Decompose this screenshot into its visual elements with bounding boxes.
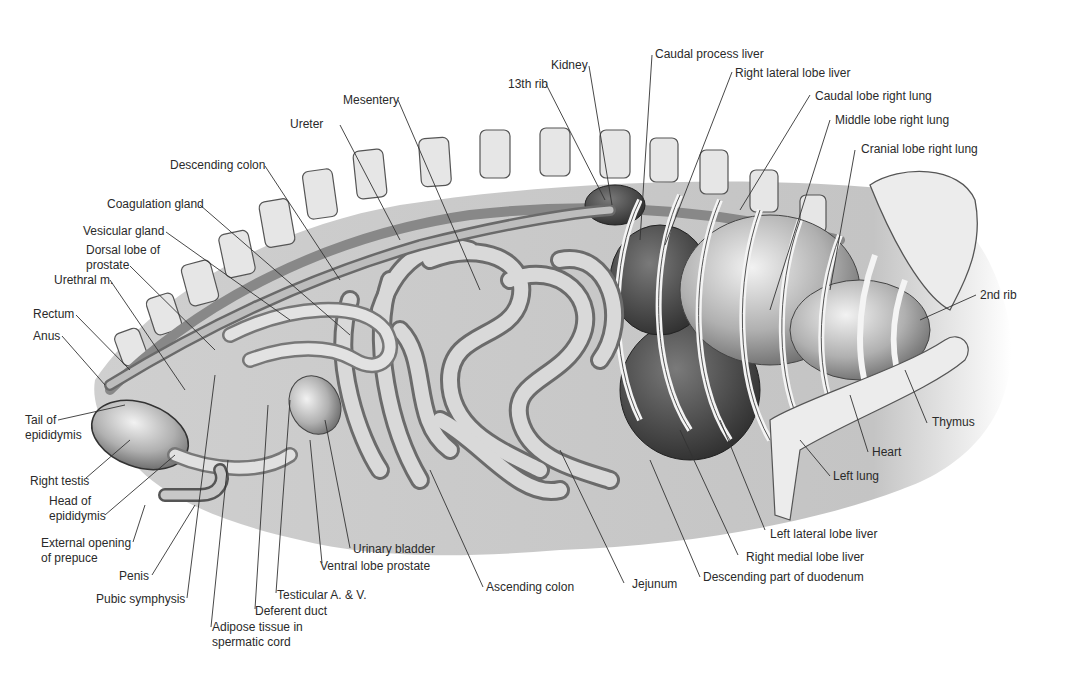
label-adipose-line1: Adipose tissue in: [212, 620, 303, 634]
label-kidney: Kidney: [551, 58, 588, 72]
label-tail-epididymis-line1: Tail of: [25, 413, 56, 427]
label-dorsal-lobe-prostate-line2: prostate: [86, 258, 129, 272]
label-right-medial-lobe-liver: Right medial lobe liver: [746, 550, 864, 564]
label-right-lateral-lobe-liver: Right lateral lobe liver: [735, 66, 850, 80]
label-coagulation-gland: Coagulation gland: [107, 197, 204, 211]
label-caudal-lobe-right-lung: Caudal lobe right lung: [815, 89, 932, 103]
label-pubic-symphysis: Pubic symphysis: [96, 592, 185, 606]
label-mesentery: Mesentery: [343, 93, 399, 107]
label-heart: Heart: [872, 445, 901, 459]
label-tail-epididymis-line2: epididymis: [25, 428, 82, 442]
label-2nd-rib: 2nd rib: [980, 288, 1017, 302]
label-testicular-av: Testicular A. & V.: [277, 588, 367, 602]
label-caudal-process-liver: Caudal process liver: [655, 47, 764, 61]
label-left-lung: Left lung: [833, 469, 879, 483]
label-descending-duodenum: Descending part of duodenum: [703, 570, 864, 584]
label-anus: Anus: [33, 329, 60, 343]
label-middle-lobe-right-lung: Middle lobe right lung: [835, 113, 949, 127]
anatomy-diagram: Kidney Caudal process liver 13th rib Rig…: [0, 0, 1079, 687]
label-external-opening-line1: External opening: [41, 536, 131, 550]
label-right-testis: Right testis: [30, 474, 89, 488]
label-adipose-line2: spermatic cord: [212, 635, 291, 649]
label-head-epididymis-line1: Head of: [49, 494, 91, 508]
label-ureter: Ureter: [290, 117, 323, 131]
label-ventral-lobe-prostate: Ventral lobe prostate: [320, 559, 430, 573]
label-head-epididymis-line2: epididymis: [49, 509, 106, 523]
label-urethral-m: Urethral m.: [54, 273, 113, 287]
label-descending-colon: Descending colon: [170, 158, 265, 172]
label-rectum: Rectum: [33, 307, 74, 321]
label-deferent-duct: Deferent duct: [255, 604, 327, 618]
label-cranial-lobe-right-lung: Cranial lobe right lung: [861, 142, 978, 156]
label-left-lateral-lobe-liver: Left lateral lobe liver: [770, 527, 877, 541]
label-jejunum: Jejunum: [632, 577, 677, 591]
label-external-opening-line2: of prepuce: [41, 551, 98, 565]
label-urinary-bladder: Urinary bladder: [353, 542, 435, 556]
label-thymus: Thymus: [932, 415, 975, 429]
label-penis: Penis: [119, 569, 149, 583]
label-vesicular-gland: Vesicular gland: [83, 224, 164, 238]
label-13th-rib: 13th rib: [508, 77, 548, 91]
label-dorsal-lobe-prostate-line1: Dorsal lobe of: [86, 243, 160, 257]
label-ascending-colon: Ascending colon: [486, 580, 574, 594]
